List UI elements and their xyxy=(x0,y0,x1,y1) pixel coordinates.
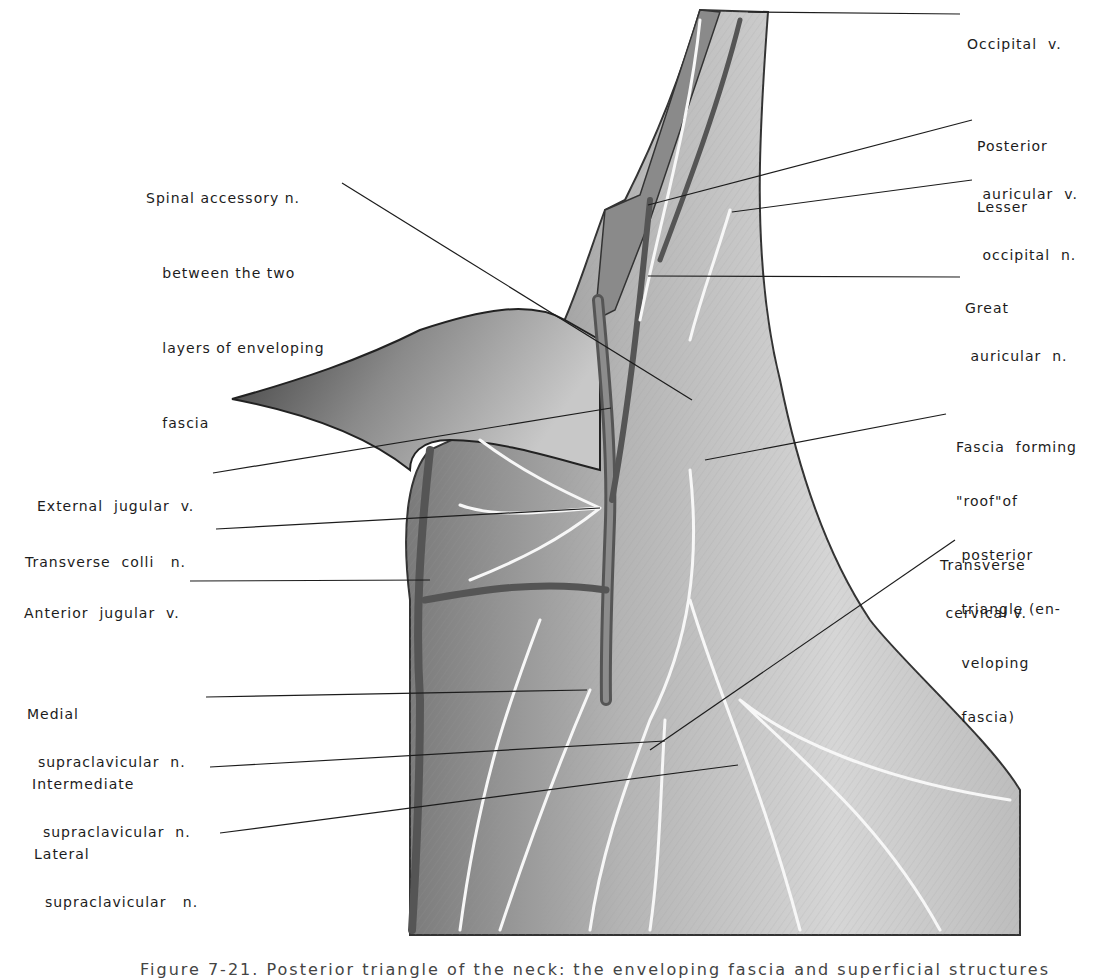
leader-occipital-v xyxy=(748,12,960,14)
label-spinal-accessory-n: Spinal accessory n. between the two laye… xyxy=(146,136,325,461)
label-external-jugular-v: External jugular v. xyxy=(37,466,194,530)
label-anterior-jugular-v: Anterior jugular v. xyxy=(24,573,180,637)
label-lesser-occipital-n: Lesser occipital n. xyxy=(977,167,1076,279)
figure-caption: Figure 7-21. Posterior triangle of the n… xyxy=(140,960,1050,979)
label-lateral-supraclavicular-n: Lateral supraclavicular n. xyxy=(34,814,198,926)
label-transverse-cervical-v: Transverse cervical v. xyxy=(940,525,1027,637)
leader-lesser-occipital-n xyxy=(732,180,972,212)
leader-anterior-jugular-v xyxy=(190,580,430,581)
label-great-auricular-n: Great auricular n. xyxy=(965,268,1068,380)
label-occipital-v: Occipital v. xyxy=(967,4,1062,68)
